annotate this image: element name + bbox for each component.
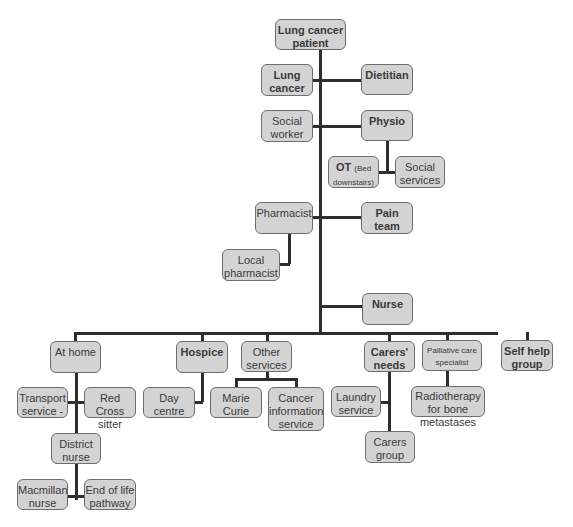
node-marie-curie: Marie Curie	[210, 387, 262, 418]
node-macmillan-nurse: Macmillan nurse	[17, 479, 68, 510]
ot-label: OT	[336, 161, 351, 173]
node-social-services: Social services	[395, 156, 445, 188]
node-carers-group: Carers group	[365, 431, 415, 463]
bottom-bus	[74, 332, 498, 335]
link-local-pharm	[280, 263, 290, 266]
link-physio-down	[386, 140, 389, 172]
other-bar	[235, 378, 297, 381]
carers-down	[388, 370, 391, 438]
link-nurse	[319, 305, 363, 308]
node-pharmacist: Pharmacist	[255, 202, 313, 234]
node-social-worker: Social worker	[261, 110, 313, 142]
link-ot-social	[378, 171, 396, 174]
link-lung-dietitian	[312, 79, 362, 82]
node-pain-team: Pain team	[361, 202, 413, 234]
node-self-help-group: Self help group	[501, 340, 553, 371]
trunk-line	[319, 48, 322, 334]
node-end-of-life: End of life pathway	[84, 479, 136, 510]
node-day-centre: Day centre	[143, 387, 195, 418]
node-ot: OT (Bed downstairs)	[328, 156, 379, 188]
node-radiotherapy: Radiotherapy for bone metastases	[411, 386, 485, 417]
node-local-pharmacist: Local pharmacist	[222, 249, 280, 281]
node-physio: Physio	[361, 110, 413, 141]
district-branch	[66, 495, 86, 498]
athome-branch	[66, 401, 86, 404]
node-lung-cancer-patient: Lung cancer patient	[275, 19, 346, 50]
node-carers-needs: Carers' needs	[364, 341, 415, 372]
node-palliative-care: Palliative care specialist	[422, 340, 482, 371]
link-pharm-pain	[312, 216, 362, 219]
node-cancer-information: Cancer information service	[268, 387, 324, 431]
node-lung-cancer: Lung cancer	[261, 64, 313, 96]
node-dietitian: Dietitian	[361, 64, 413, 95]
node-hospice: Hospice	[176, 341, 228, 373]
node-red-cross: Red Cross sitter	[84, 387, 136, 418]
node-nurse: Nurse	[362, 293, 413, 325]
hospice-down	[201, 370, 204, 402]
node-laundry-service: Laundry service	[331, 386, 381, 417]
link-social-physio	[312, 125, 362, 128]
node-transport: Transport service -	[17, 387, 68, 418]
node-other-services: Other services	[241, 341, 292, 372]
carers-laundry	[380, 401, 390, 404]
node-district-nurse: District nurse	[51, 433, 101, 464]
link-pharm-down	[288, 232, 291, 264]
node-at-home: At home	[50, 341, 101, 373]
